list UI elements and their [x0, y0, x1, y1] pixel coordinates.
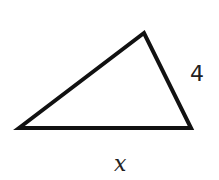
- triangle-shape: [0, 0, 219, 180]
- base-length-label: x: [114, 152, 126, 176]
- side-length-label: 4: [190, 62, 204, 86]
- triangle-diagram: 4 x: [0, 0, 219, 180]
